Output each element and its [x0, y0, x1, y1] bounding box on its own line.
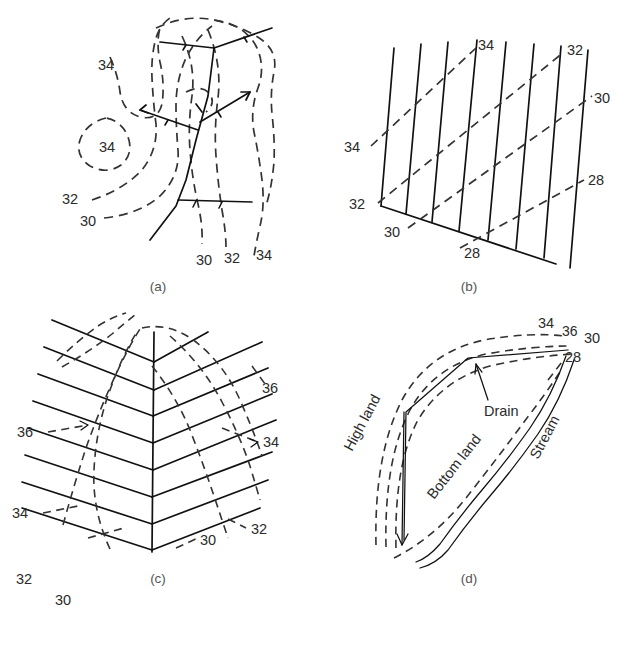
panel-c-left-laterals	[22, 320, 154, 550]
panel-c-svg: 36 34 32 30 36 34 32 30 (c)	[0, 300, 316, 645]
panel-a-random-layout: 34 34 32 30 30 32 34 (a)	[0, 0, 316, 310]
contour-label-30-bottom-center: 30	[200, 532, 216, 548]
contour-label-34-bottom-right: 34	[256, 247, 272, 263]
contour-label-28-right: 28	[588, 172, 604, 188]
panel-a-caption: (a)	[150, 279, 167, 294]
panel-a-contours	[79, 18, 275, 256]
contour-label-30-right: 30	[594, 90, 610, 106]
panel-a-contour-labels: 34 34 32 30 30 32 34	[62, 57, 272, 268]
contour-label-28-bottom: 28	[464, 245, 480, 261]
panel-c-herringbone-layout: 36 34 32 30 36 34 32 30 (c)	[0, 300, 316, 645]
panel-b-contour-labels: 34 32 30 28 34 32 30 28	[344, 37, 610, 261]
contour-label-32-top-right: 32	[567, 42, 583, 58]
panel-b-svg: 34 32 30 28 34 32 30 28 (b)	[316, 0, 631, 310]
panel-d-drain-callout	[475, 364, 488, 400]
annotation-drain: Drain	[484, 403, 519, 419]
annotation-stream: Stream	[527, 413, 563, 462]
contour-label-36-top-right: 36	[562, 323, 578, 339]
panel-b-drain-lines	[381, 40, 588, 268]
panel-c-caption: (c)	[150, 571, 166, 586]
panel-d-stream	[416, 356, 574, 568]
contour-label-30-bottom-left: 30	[55, 592, 71, 608]
contour-label-34-top: 34	[478, 37, 494, 53]
panel-d-annotations: High land Drain Bottom land Stream	[341, 392, 563, 502]
contour-label-32-left: 32	[349, 196, 365, 212]
contour-label-34-upper-left: 34	[98, 57, 114, 73]
contour-label-34-left: 34	[344, 139, 360, 155]
panel-d-contour-labels: 34 36 30 28	[538, 315, 600, 365]
contour-label-28-right: 28	[565, 349, 581, 365]
annotation-high-land: High land	[341, 392, 384, 454]
drainage-layout-figure: 34 34 32 30 30 32 34 (a)	[0, 0, 631, 645]
panel-d-svg: 34 36 30 28 High land Drain Bottom land …	[316, 300, 631, 645]
contour-label-30-top-right: 30	[584, 330, 600, 346]
panel-c-arrowheads	[80, 421, 258, 447]
contour-label-30-bottom-left: 30	[384, 224, 400, 240]
contour-label-34-left: 34	[12, 505, 28, 521]
panel-c-right-laterals	[152, 332, 276, 550]
annotation-bottom-land: Bottom land	[424, 431, 484, 502]
panel-b-parallel-layout: 34 32 30 28 34 32 30 28 (b)	[316, 0, 631, 310]
contour-label-32-lower-left: 32	[62, 191, 78, 207]
contour-label-36-right: 36	[262, 380, 278, 396]
panel-d-double-main-layout: 34 36 30 28 High land Drain Bottom land …	[316, 300, 631, 645]
contour-label-32-right: 32	[251, 521, 267, 537]
contour-label-32-bottom: 32	[224, 250, 240, 266]
panel-b-caption: (b)	[461, 279, 478, 294]
panel-d-caption: (d)	[461, 571, 478, 586]
contour-label-34-top-right: 34	[538, 315, 554, 331]
contour-label-30-bottom: 30	[196, 252, 212, 268]
panel-c-contours	[43, 313, 268, 549]
contour-label-32-left: 32	[16, 571, 32, 587]
panel-a-svg: 34 34 32 30 30 32 34 (a)	[0, 0, 316, 310]
contour-label-36-left: 36	[17, 424, 33, 440]
contour-label-34-closed: 34	[99, 139, 115, 155]
contour-label-34-right: 34	[263, 434, 279, 450]
contour-label-30-lower-left: 30	[80, 213, 96, 229]
